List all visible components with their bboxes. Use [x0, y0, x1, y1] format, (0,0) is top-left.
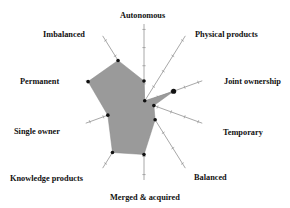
data-point-marker: [143, 99, 147, 103]
data-point-marker: [171, 89, 176, 94]
data-point-marker: [111, 151, 115, 155]
axis-label-single-owner: Single owner: [14, 128, 60, 136]
axis-tick: [184, 86, 185, 89]
axis-tick: [157, 105, 158, 108]
axis-line: [144, 36, 185, 102]
axis-label-balanced: Balanced: [194, 174, 227, 182]
data-point-marker: [142, 153, 146, 157]
data-point-marker: [142, 79, 146, 83]
axis-tick: [89, 120, 90, 123]
axis-tick: [184, 115, 185, 118]
axis-label-merged-acquired: Merged & acquired: [110, 194, 180, 202]
axis-label-joint-ownership: Joint ownership: [224, 78, 281, 86]
axis-label-imbalanced: Imbalanced: [43, 31, 85, 39]
axis-label-temporary: Temporary: [223, 129, 263, 137]
axis-label-autonomous: Autonomous: [120, 12, 165, 20]
axis-tick: [171, 110, 172, 113]
data-point-marker: [86, 80, 90, 84]
data-point-marker: [152, 104, 156, 108]
axis-tick: [103, 115, 104, 118]
data-point-marker: [153, 118, 157, 122]
axis-tick: [198, 81, 199, 84]
data-point-marker: [106, 113, 110, 117]
axis-label-knowledge-products: Knowledge products: [10, 175, 83, 183]
data-point-marker: [116, 59, 120, 63]
axis-label-permanent: Permanent: [20, 78, 59, 86]
axis-label-physical-products: Physical products: [195, 31, 258, 39]
axis-tick: [198, 120, 199, 123]
